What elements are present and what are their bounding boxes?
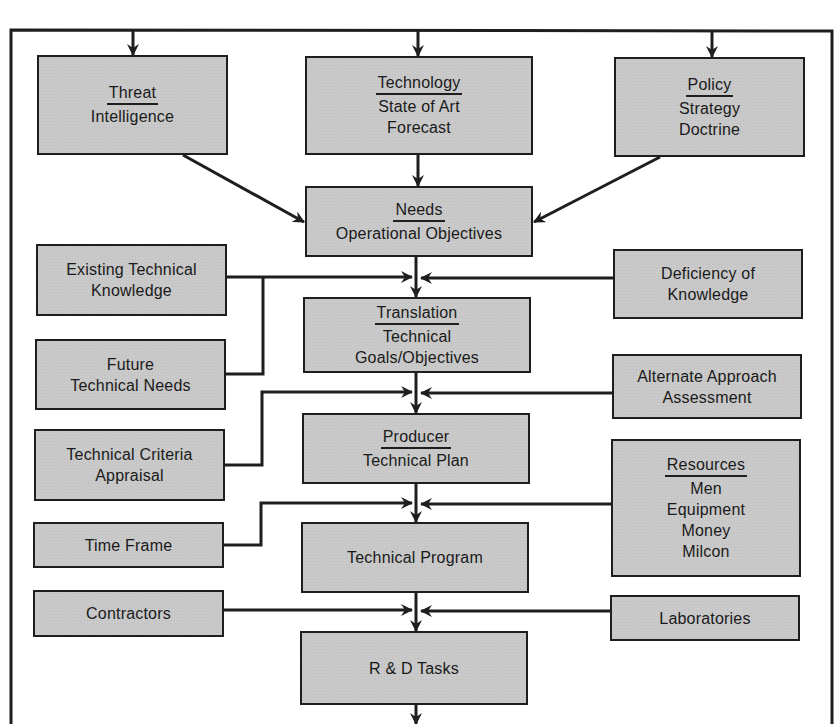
- laboratories-box: Laboratories: [610, 595, 800, 641]
- needs-box: Needs Operational Objectives: [305, 186, 533, 257]
- rd-planning-flow-diagram: Threat Intelligence Technology State of …: [0, 0, 839, 724]
- alternate-approach-line-1: Alternate Approach: [637, 366, 777, 387]
- arrow-policy-to-needs: [534, 157, 660, 222]
- criteria-appraisal-line-2: Appraisal: [95, 465, 164, 486]
- needs-title: Needs: [393, 200, 444, 222]
- contractors-box: Contractors: [33, 590, 224, 637]
- technology-line-1: State of Art: [378, 96, 460, 117]
- future-needs-line-1: Future: [107, 354, 154, 375]
- threat-box: Threat Intelligence: [37, 55, 228, 155]
- policy-line-2: Doctrine: [679, 119, 740, 140]
- technology-box: Technology State of Art Forecast: [305, 56, 533, 155]
- translation-box: Translation Technical Goals/Objectives: [303, 297, 531, 373]
- future-needs-box: Future Technical Needs: [35, 339, 226, 410]
- resources-line-4: Milcon: [682, 541, 729, 562]
- technical-program-line: Technical Program: [347, 547, 483, 568]
- policy-line-1: Strategy: [679, 98, 740, 119]
- criteria-appraisal-line-1: Technical Criteria: [66, 444, 192, 465]
- technology-title: Technology: [376, 73, 463, 95]
- technical-program-box: Technical Program: [301, 522, 529, 593]
- translation-line-2: Goals/Objectives: [355, 347, 479, 368]
- threat-title: Threat: [107, 83, 158, 105]
- resources-line-3: Money: [681, 520, 730, 541]
- alternate-approach-box: Alternate Approach Assessment: [612, 354, 802, 419]
- translation-line-1: Technical: [383, 326, 452, 347]
- deficiency-box: Deficiency of Knowledge: [613, 249, 803, 319]
- deficiency-line-2: Knowledge: [668, 284, 749, 305]
- producer-line: Technical Plan: [363, 450, 469, 471]
- existing-knowledge-line-1: Existing Technical: [66, 259, 196, 280]
- policy-title: Policy: [686, 75, 734, 97]
- resources-line-1: Men: [690, 478, 722, 499]
- existing-knowledge-box: Existing Technical Knowledge: [36, 244, 227, 316]
- producer-title: Producer: [381, 427, 452, 449]
- future-needs-line-2: Technical Needs: [70, 375, 190, 396]
- contractors-line: Contractors: [86, 603, 171, 624]
- connector-future-needs: [226, 277, 263, 374]
- laboratories-line: Laboratories: [659, 608, 750, 629]
- resources-line-2: Equipment: [667, 499, 745, 520]
- needs-line: Operational Objectives: [336, 223, 502, 244]
- time-frame-line: Time Frame: [85, 535, 173, 556]
- policy-box: Policy Strategy Doctrine: [614, 57, 805, 157]
- time-frame-box: Time Frame: [33, 522, 224, 568]
- threat-line: Intelligence: [91, 106, 174, 127]
- resources-title: Resources: [665, 455, 747, 477]
- deficiency-line-1: Deficiency of: [661, 263, 755, 284]
- technology-line-2: Forecast: [387, 117, 451, 138]
- alternate-approach-line-2: Assessment: [662, 387, 751, 408]
- arrow-threat-to-needs: [183, 155, 304, 222]
- rd-tasks-box: R & D Tasks: [300, 631, 528, 705]
- resources-box: Resources Men Equipment Money Milcon: [611, 439, 801, 577]
- criteria-appraisal-box: Technical Criteria Appraisal: [34, 429, 225, 501]
- existing-knowledge-line-2: Knowledge: [91, 280, 172, 301]
- producer-box: Producer Technical Plan: [302, 413, 530, 484]
- rd-tasks-line: R & D Tasks: [369, 658, 459, 679]
- translation-title: Translation: [375, 303, 460, 325]
